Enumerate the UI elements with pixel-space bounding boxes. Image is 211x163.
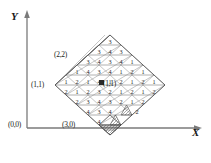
y-axis-arrow — [24, 10, 30, 18]
cell-number: 2 — [75, 98, 78, 105]
cell-number: 4 — [97, 58, 100, 65]
y-axis-label: Y — [11, 10, 18, 22]
point-label-origin: (0,0) — [8, 120, 21, 129]
cell-number: 3 — [119, 48, 122, 55]
cell-number: 1 — [141, 68, 144, 75]
point-label-2-2: (2,2) — [54, 50, 67, 59]
cell-number: 4 — [108, 108, 111, 115]
cell-number: 3 — [97, 88, 100, 95]
cell-number: 2 — [141, 98, 144, 105]
point-label-1-1: (1,1) — [31, 80, 44, 89]
cell-number: 4 — [108, 48, 111, 55]
cell-number: 1 — [64, 78, 67, 85]
cell-number: 1 — [75, 68, 78, 75]
cell-number: 2 — [119, 78, 122, 85]
cell-number: 2 — [75, 78, 78, 85]
cell-number: 3 — [97, 48, 100, 55]
point-label-center: (1,1) — [103, 79, 116, 88]
cell-number: 2 — [130, 68, 133, 75]
cell-number: 1 — [119, 88, 122, 95]
cell-number: 3 — [86, 98, 89, 105]
figure-canvas: 3 3 4 3 3 4 3 4 1 1 4 3 4 1 2 1 1 2 1 4 … — [0, 0, 211, 163]
cell-number: 2 — [135, 108, 138, 115]
cell-number: 3 — [108, 58, 111, 65]
cell-number: 4 — [97, 118, 100, 125]
cell-number: 4 — [119, 58, 122, 65]
cell-number: 4 — [97, 98, 100, 105]
cell-number: 1 — [130, 78, 133, 85]
axis-group — [24, 10, 202, 131]
cell-number: 2 — [64, 88, 67, 95]
cell-number: 4 — [86, 108, 89, 115]
cell-number: 2 — [152, 88, 155, 95]
cell-number: 1 — [130, 58, 133, 65]
cell-number: 1 — [141, 88, 144, 95]
cell-number: 3 — [108, 38, 111, 45]
x-axis-label: X — [192, 126, 199, 138]
cell-number: 3 — [97, 108, 100, 115]
point-label-3-0: (3,0) — [62, 120, 75, 129]
cell-number: 1 — [75, 88, 78, 95]
cell-number: 3 — [97, 68, 100, 75]
cell-number: 1 — [130, 98, 133, 105]
cell-number: 2 — [119, 98, 122, 105]
cell-number: 1 — [86, 78, 89, 85]
cell-number: 1 — [119, 68, 122, 75]
cell-number: 1 — [152, 78, 155, 85]
cell-number: 2 — [130, 88, 133, 95]
cell-number: 2 — [108, 88, 111, 95]
cell-number: 3 — [108, 98, 111, 105]
cell-number: 2 — [86, 88, 89, 95]
cell-number: 2 — [141, 78, 144, 85]
cell-number: 3 — [86, 58, 89, 65]
cell-number: 4 — [86, 68, 89, 75]
cell-number: 4 — [108, 68, 111, 75]
